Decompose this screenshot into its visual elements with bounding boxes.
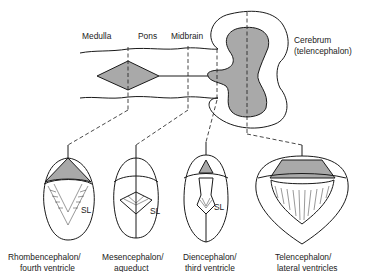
leader-telencephalon (247, 134, 302, 145)
third-ventricle-roof (199, 160, 213, 173)
lateral-ventricle-roof (270, 160, 335, 178)
leader-rhombencephalon (68, 110, 128, 145)
section-rhombencephalon: SL (44, 145, 95, 240)
label-telencephalon: (telencephalon) (294, 46, 352, 56)
tube-lower-wall (80, 97, 218, 99)
caption-mesencephalon-1: Mesencephalon/ (102, 252, 164, 262)
caption-rhombencephalon-2: fourth ventricle (20, 263, 75, 272)
caption-telencephalon-1: Telencephalon/ (275, 252, 332, 262)
label-pons: Pons (138, 31, 157, 41)
neural-tube-diagram: Medulla Pons Midbrain Cerebrum (telencep… (0, 0, 369, 272)
caption-telencephalon-2: lateral ventricles (277, 263, 338, 272)
tube-upper-wall (80, 48, 218, 53)
fourth-ventricle-roof (45, 158, 91, 182)
sl-marker: SL (81, 205, 92, 215)
caption-diencephalon-1: Diencephalon/ (183, 252, 237, 262)
section-telencephalon (256, 145, 348, 244)
caption-diencephalon-2: third ventricle (185, 263, 235, 272)
leader-mesencephalon (136, 110, 188, 145)
label-midbrain: Midbrain (171, 31, 203, 41)
label-medulla: Medulla (82, 31, 112, 41)
section-diencephalon: SL (184, 142, 228, 242)
caption-rhombencephalon-1: Rhombencephalon/ (8, 252, 81, 262)
section-mesencephalon: SL (114, 145, 161, 238)
sl-marker: SL (150, 206, 161, 216)
leader-diencephalon (206, 100, 217, 142)
label-cerebrum: Cerebrum (294, 35, 331, 45)
sl-marker: SL (214, 202, 225, 212)
caption-mesencephalon-2: aqueduct (114, 263, 149, 272)
